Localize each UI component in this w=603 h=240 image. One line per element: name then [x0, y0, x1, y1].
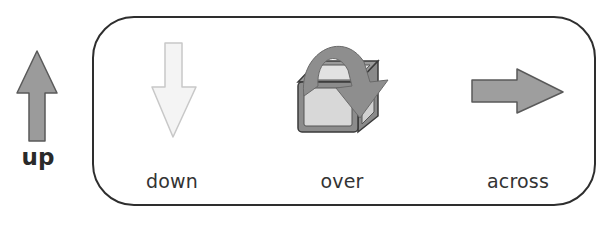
arrow-down-icon [151, 42, 201, 138]
label-across: across [478, 170, 558, 192]
label-down: down [132, 170, 212, 192]
arrow-over-box-icon [290, 34, 400, 134]
label-up: up [16, 144, 60, 170]
arrow-right-icon [471, 68, 565, 114]
label-over: over [302, 170, 382, 192]
arrow-up-icon [15, 50, 59, 142]
